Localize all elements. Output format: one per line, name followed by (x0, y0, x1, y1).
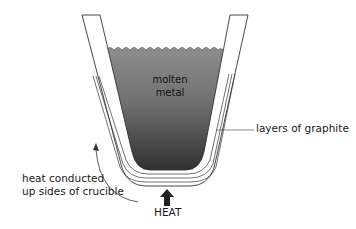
heat-arrow-icon (160, 189, 174, 206)
heat-label: HEAT (154, 206, 181, 219)
heat-conducted-line2: up sides of crucible (22, 185, 124, 198)
heat-conducted-label: heat conducted up sides of crucible (22, 172, 124, 198)
molten-metal-label: molten metal (140, 73, 200, 99)
heat-conducted-line1: heat conducted (22, 172, 124, 185)
molten-label-line1: molten (140, 73, 200, 86)
graphite-label: layers of graphite (256, 122, 349, 135)
heat-conduction-arrowhead (93, 143, 99, 151)
molten-label-line2: metal (140, 86, 200, 99)
